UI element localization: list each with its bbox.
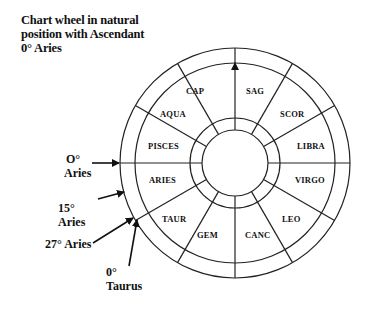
twentyseven-aries-label: 27° Aries	[45, 237, 91, 251]
fifteen-aries-label: 15° Aries	[58, 201, 85, 229]
sign-label-cap: CAP	[186, 86, 204, 96]
zero-taurus-arrow	[129, 220, 137, 266]
sign-label-canc: CANC	[245, 230, 270, 240]
fifteen-aries-degree: 15°	[58, 201, 85, 215]
zero-aries-label: O° Aries	[66, 152, 91, 180]
chart-wheel: CAPSAGSCORLIBRAVIRGOLEOCANCGEMTAURARIESP…	[0, 0, 367, 309]
twentyseven-aries-arrow	[93, 218, 133, 243]
sign-label-leo: LEO	[282, 214, 301, 224]
sign-label-pisces: PISCES	[148, 141, 179, 151]
zero-taurus-degree: 0°	[106, 265, 142, 279]
inner-ring-outer-circle	[190, 118, 280, 208]
sign-label-scor: SCOR	[280, 109, 305, 119]
spoke-line	[178, 63, 219, 134]
fifteen-aries-sign: Aries	[58, 215, 85, 229]
zero-aries-sign: Aries	[64, 166, 91, 180]
sign-label-gem: GEM	[197, 230, 218, 240]
sign-label-sag: SAG	[246, 86, 264, 96]
sign-label-taur: TAUR	[162, 214, 187, 224]
zero-aries-degree: O°	[66, 152, 91, 166]
spoke-line	[252, 192, 293, 263]
zero-taurus-sign: Taurus	[106, 279, 142, 293]
sign-label-virgo: VIRGO	[295, 175, 325, 185]
fifteen-aries-arrow	[98, 192, 124, 199]
spoke-line	[178, 192, 219, 263]
sign-label-aries: ARIES	[149, 175, 176, 185]
sign-label-libra: LIBRA	[297, 141, 326, 151]
zero-taurus-label: 0° Taurus	[106, 265, 142, 293]
sign-label-aqua: AQUA	[160, 109, 186, 119]
inner-ring-inner-circle	[202, 130, 268, 196]
spoke-line	[252, 63, 293, 134]
twentyseven-aries-text: 27° Aries	[45, 237, 91, 251]
